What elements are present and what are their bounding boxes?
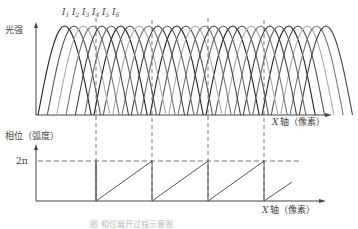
intensity-curves bbox=[38, 26, 353, 115]
phase-unwrap-diagram: 光强 I1I2I3I4I5I6 X 轴（像素） 相位（弧度） 2π X 轴（像素… bbox=[0, 0, 358, 229]
curve-label: I6 bbox=[111, 7, 120, 18]
curve-label: I3 bbox=[81, 7, 90, 18]
two-pi-tick: 2π bbox=[16, 156, 28, 166]
x-axis-var: X bbox=[261, 205, 269, 215]
curve-label: I2 bbox=[71, 7, 80, 18]
curve-label: I5 bbox=[101, 7, 110, 18]
fringe-boundaries bbox=[96, 18, 264, 201]
phase-y-label: 相位（弧度） bbox=[5, 130, 59, 141]
bottom-panel: 相位（弧度） 2π X 轴（像素） bbox=[5, 130, 326, 215]
curve-label: I1 bbox=[61, 7, 69, 18]
top-panel: 光强 I1I2I3I4I5I6 X 轴（像素） bbox=[5, 7, 353, 127]
x-axis-arrow-icon bbox=[319, 199, 326, 203]
wrapped-phase-sawtooth bbox=[96, 161, 292, 201]
y-axis-arrow-icon bbox=[34, 22, 38, 28]
x-axis-arrow-icon bbox=[325, 113, 332, 117]
x-axis-label: 轴（像素） bbox=[280, 116, 325, 127]
curve-labels: I1I2I3I4I5I6 bbox=[61, 7, 120, 18]
curve-label: I4 bbox=[91, 7, 100, 18]
x-axis-label: 轴（像素） bbox=[270, 204, 315, 215]
figure-caption: 图 相位展开过程示意图 bbox=[90, 219, 173, 229]
y-axis-arrow-icon bbox=[34, 144, 38, 150]
y-axis-label: 光强 bbox=[5, 24, 23, 35]
x-axis-var: X bbox=[271, 117, 279, 127]
